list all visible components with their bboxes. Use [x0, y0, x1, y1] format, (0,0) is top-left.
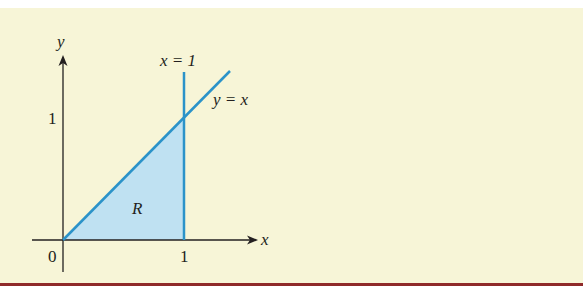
- diagonal-line-label: y = x: [211, 90, 249, 109]
- origin-label: 0: [48, 247, 57, 266]
- x-axis-label: x: [260, 230, 269, 249]
- y-tick-label: 1: [48, 109, 57, 128]
- region-label: R: [131, 199, 143, 218]
- region-diagram: y x 0 1 1 x = 1 y = x R: [0, 0, 583, 295]
- y-axis-label: y: [55, 32, 65, 51]
- x-tick-label: 1: [180, 247, 189, 266]
- vertical-line-label: x = 1: [159, 51, 196, 70]
